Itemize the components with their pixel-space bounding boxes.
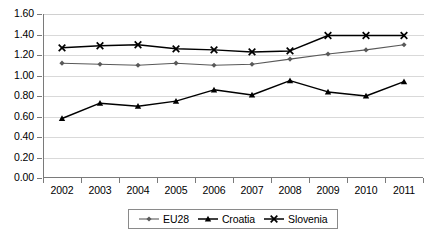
legend-x-icon bbox=[263, 213, 285, 225]
legend-diamond-icon bbox=[138, 213, 160, 225]
legend-label: Croatia bbox=[222, 214, 255, 225]
chart-legend: EU28CroatiaSlovenia bbox=[128, 209, 338, 229]
data-point-diamond-marker bbox=[97, 62, 102, 67]
series-slovenia bbox=[59, 32, 408, 55]
data-point-diamond-marker bbox=[401, 42, 406, 47]
data-point-diamond-marker bbox=[249, 62, 254, 67]
legend-label: Slovenia bbox=[288, 214, 327, 225]
data-point-diamond-marker bbox=[363, 47, 368, 52]
data-point-diamond-marker bbox=[135, 63, 140, 68]
series-layer bbox=[0, 0, 434, 238]
legend-label: EU28 bbox=[163, 214, 189, 225]
data-point-diamond-marker bbox=[173, 61, 178, 66]
series-line bbox=[62, 81, 404, 119]
data-point-diamond-marker bbox=[287, 57, 292, 62]
legend-item-slovenia[interactable]: Slovenia bbox=[263, 213, 327, 225]
series-line bbox=[62, 36, 404, 52]
series-croatia bbox=[59, 77, 407, 121]
data-point-diamond-marker bbox=[211, 63, 216, 68]
legend-item-croatia[interactable]: Croatia bbox=[197, 213, 255, 225]
data-point-diamond-marker bbox=[146, 216, 151, 221]
line-chart: 0.000.200.400.600.801.001.201.401.60 200… bbox=[0, 0, 434, 238]
data-point-diamond-marker bbox=[325, 51, 330, 56]
series-line bbox=[62, 45, 404, 66]
data-point-triangle-marker bbox=[287, 77, 293, 83]
data-point-diamond-marker bbox=[59, 61, 64, 66]
legend-triangle-icon bbox=[197, 213, 219, 225]
data-point-triangle-marker bbox=[401, 78, 407, 84]
legend-item-eu28[interactable]: EU28 bbox=[138, 213, 189, 225]
